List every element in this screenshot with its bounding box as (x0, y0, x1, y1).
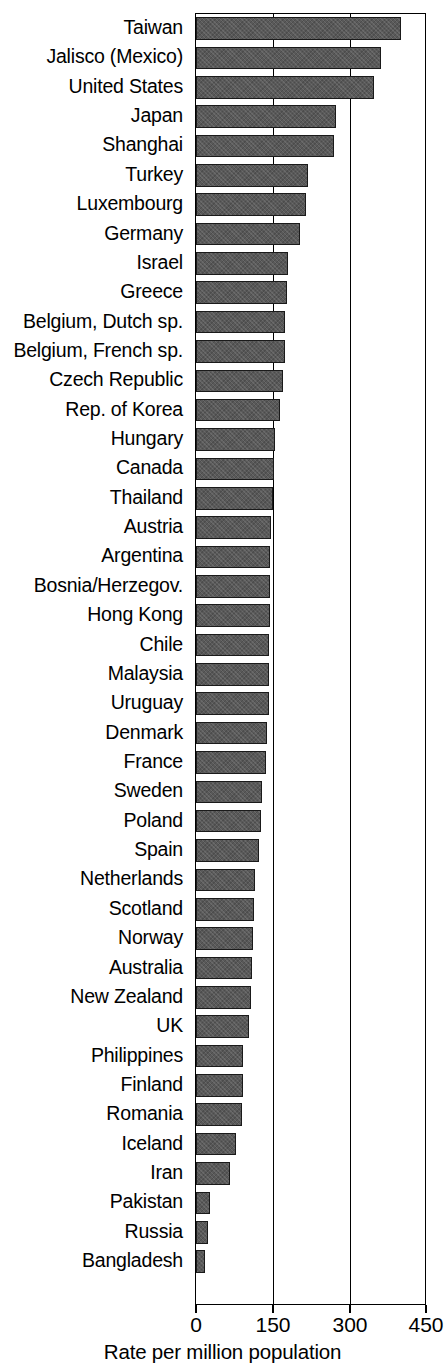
bar-row (196, 102, 425, 131)
bar (196, 399, 280, 422)
bar (196, 370, 283, 393)
category-label: Spain (0, 835, 189, 864)
bar (196, 1015, 249, 1038)
bar (196, 634, 269, 657)
bar-row (196, 719, 425, 748)
x-tick-0 (195, 1305, 197, 1313)
bar (196, 516, 271, 539)
bar (196, 105, 336, 128)
bar-row (196, 1247, 425, 1276)
bar (196, 428, 275, 451)
bar-row (196, 660, 425, 689)
bar-row (196, 278, 425, 307)
bar (196, 17, 401, 40)
category-label: Czech Republic (0, 365, 189, 394)
category-label: UK (0, 1011, 189, 1040)
bar (196, 986, 251, 1009)
bar (196, 223, 300, 246)
bar (196, 76, 374, 99)
category-label: Sweden (0, 776, 189, 805)
bar-row (196, 1159, 425, 1188)
bar (196, 839, 259, 862)
category-label: Pakistan (0, 1187, 189, 1216)
x-axis-title: Rate per million population (0, 1340, 445, 1364)
bar-row (196, 836, 425, 865)
bar (196, 692, 269, 715)
x-tick-label-300: 300 (315, 1313, 385, 1337)
bar-row (196, 337, 425, 366)
category-label: Denmark (0, 718, 189, 747)
category-label: Belgium, Dutch sp. (0, 307, 189, 336)
category-label: Finland (0, 1070, 189, 1099)
x-tick-300 (349, 1305, 351, 1313)
bar-row (196, 542, 425, 571)
category-label: France (0, 747, 189, 776)
bar-row (196, 425, 425, 454)
category-label: New Zealand (0, 982, 189, 1011)
bar (196, 311, 285, 334)
bar (196, 193, 306, 216)
bar-row (196, 954, 425, 983)
bar-row (196, 748, 425, 777)
bar-row (196, 689, 425, 718)
bar-row (196, 73, 425, 102)
bar-row (196, 601, 425, 630)
category-label: Japan (0, 101, 189, 130)
bar (196, 47, 381, 70)
bar (196, 604, 270, 627)
bar-row (196, 807, 425, 836)
bar (196, 781, 262, 804)
category-label: Russia (0, 1217, 189, 1246)
category-label: Rep. of Korea (0, 395, 189, 424)
category-label: Chile (0, 630, 189, 659)
bar-row (196, 1130, 425, 1159)
bar-row (196, 983, 425, 1012)
category-label: Poland (0, 806, 189, 835)
x-tick-label-150: 150 (238, 1313, 308, 1337)
category-label: Iran (0, 1158, 189, 1187)
bar-row (196, 249, 425, 278)
bar (196, 546, 270, 569)
bar-row (196, 895, 425, 924)
bar-row (196, 1042, 425, 1071)
category-label: Taiwan (0, 13, 189, 42)
category-label: Philippines (0, 1041, 189, 1070)
category-label: Turkey (0, 160, 189, 189)
bar (196, 1045, 243, 1068)
category-label: Australia (0, 953, 189, 982)
bar (196, 1221, 208, 1244)
bar (196, 1133, 236, 1156)
category-label: Malaysia (0, 659, 189, 688)
category-label: Hungary (0, 424, 189, 453)
category-label: Thailand (0, 483, 189, 512)
category-label: Jalisco (Mexico) (0, 42, 189, 71)
bar-row (196, 366, 425, 395)
bar-row (196, 396, 425, 425)
bar (196, 1074, 243, 1097)
bar-row (196, 572, 425, 601)
bar-row (196, 454, 425, 483)
category-label: Belgium, French sp. (0, 336, 189, 365)
bar-row (196, 190, 425, 219)
bar (196, 810, 261, 833)
bar (196, 458, 274, 481)
bar (196, 487, 273, 510)
bar-rows (196, 14, 425, 1304)
bar (196, 164, 308, 187)
bar (196, 869, 255, 892)
category-label: Greece (0, 277, 189, 306)
bar (196, 281, 287, 304)
bar-row (196, 484, 425, 513)
bar-row (196, 14, 425, 43)
bar (196, 957, 252, 980)
bar (196, 135, 334, 158)
bar-row (196, 131, 425, 160)
bar (196, 252, 288, 275)
bar-row (196, 513, 425, 542)
category-label: Hong Kong (0, 600, 189, 629)
bar (196, 751, 266, 774)
category-label: Bosnia/Herzegov. (0, 571, 189, 600)
bar-row (196, 43, 425, 72)
bar (196, 898, 254, 921)
bar-row (196, 777, 425, 806)
